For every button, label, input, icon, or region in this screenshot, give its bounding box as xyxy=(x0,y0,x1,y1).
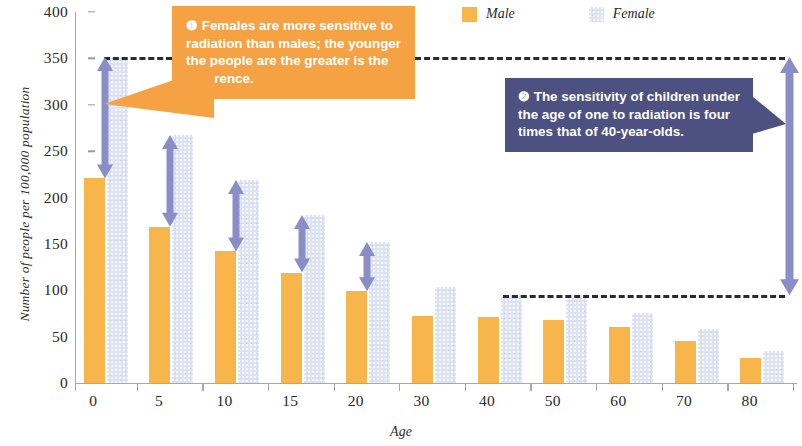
y-tick-label: 400 xyxy=(24,3,68,21)
y-tick-label: 300 xyxy=(24,96,68,114)
ratio-arrow-children-vs-forty xyxy=(780,57,799,295)
legend-label-male: Male xyxy=(486,6,515,22)
bar-male-age-70 xyxy=(675,341,696,383)
y-tick-label: 250 xyxy=(24,142,68,160)
x-tick-label: 0 xyxy=(68,392,118,410)
y-tick-label: 150 xyxy=(24,235,68,253)
x-tick-mark xyxy=(596,384,597,391)
bar-male-age-20 xyxy=(346,291,367,383)
bar-female-age-80 xyxy=(763,351,784,383)
x-tick-label: 40 xyxy=(462,392,512,410)
x-tick-mark xyxy=(202,384,203,391)
x-tick-mark xyxy=(268,384,269,391)
difference-arrow-age-10 xyxy=(228,180,244,251)
y-tick-label: 0 xyxy=(24,374,68,392)
x-tick-mark xyxy=(399,384,400,391)
y-axis-ticks: 050100150200250300350400 xyxy=(20,0,68,446)
x-axis-title: Age xyxy=(0,424,802,440)
upper-dashed-line-left xyxy=(104,57,172,60)
callout-one-marker: ❶ xyxy=(186,18,198,34)
x-tick-mark xyxy=(530,384,531,391)
difference-arrow-age-5 xyxy=(162,135,178,227)
x-tick-label: 10 xyxy=(200,392,250,410)
y-tick-label: 100 xyxy=(24,281,68,299)
chart-legend: Male Female xyxy=(462,6,655,22)
bar-male-age-30 xyxy=(412,316,433,383)
bar-female-age-40 xyxy=(501,295,522,383)
bar-male-age-50 xyxy=(543,320,564,383)
x-tick-label: 30 xyxy=(397,392,447,410)
bar-male-age-0 xyxy=(84,178,105,383)
callout-two-tail xyxy=(752,96,792,146)
bar-male-age-60 xyxy=(609,327,630,383)
callout-one-tail xyxy=(104,66,214,136)
difference-arrow-age-20 xyxy=(359,242,375,291)
x-tick-label: 70 xyxy=(659,392,709,410)
x-tick-mark xyxy=(334,384,335,391)
bar-male-age-80 xyxy=(740,358,761,383)
lower-dashed-line xyxy=(503,295,785,298)
x-tick-mark xyxy=(465,384,466,391)
x-tick-mark xyxy=(793,384,794,391)
x-tick-label: 5 xyxy=(134,392,184,410)
bar-female-age-70 xyxy=(698,329,719,383)
bar-female-age-30 xyxy=(435,287,456,383)
upper-dashed-line-right xyxy=(415,57,785,60)
x-tick-label: 60 xyxy=(593,392,643,410)
x-tick-label: 20 xyxy=(331,392,381,410)
female-color-swatch xyxy=(589,7,604,22)
legend-item-female: Female xyxy=(589,6,655,22)
difference-arrow-age-15 xyxy=(294,215,310,273)
bar-male-age-10 xyxy=(215,251,236,383)
y-tick-label: 50 xyxy=(24,328,68,346)
bar-female-age-60 xyxy=(632,313,653,383)
x-tick-label: 15 xyxy=(265,392,315,410)
bar-chart: Number of people per 100,000 population … xyxy=(0,0,802,446)
callout-two-marker: ❷ xyxy=(518,89,530,105)
x-tick-mark xyxy=(727,384,728,391)
bar-female-age-50 xyxy=(566,298,587,383)
male-color-swatch xyxy=(462,7,477,22)
legend-label-female: Female xyxy=(613,6,655,22)
y-tick-label: 200 xyxy=(24,189,68,207)
x-tick-label: 80 xyxy=(725,392,775,410)
x-tick-mark xyxy=(662,384,663,391)
callout-children-sensitivity: ❷ The sensitivity of children under the … xyxy=(505,78,753,152)
y-tick-label: 350 xyxy=(24,49,68,67)
bar-male-age-40 xyxy=(478,317,499,383)
x-tick-mark xyxy=(75,384,76,391)
bar-male-age-15 xyxy=(281,273,302,383)
x-tick-mark xyxy=(137,384,138,391)
legend-item-male: Male xyxy=(462,6,515,22)
bar-male-age-5 xyxy=(149,227,170,383)
callout-two-text: The sensitivity of children under the ag… xyxy=(518,89,740,139)
x-tick-label: 50 xyxy=(528,392,578,410)
callout-one-text: Females are more sensitive to radiation … xyxy=(186,18,401,86)
